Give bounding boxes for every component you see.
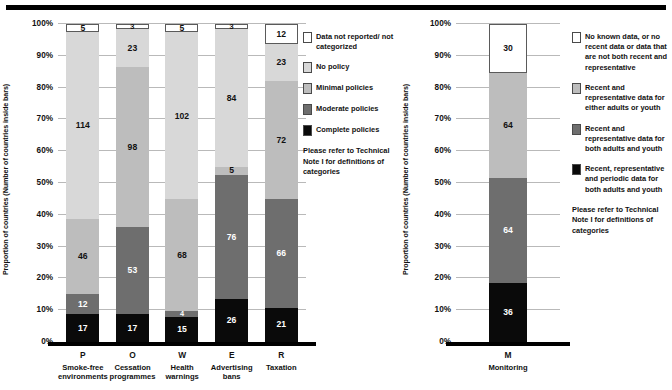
legend-swatch-icon [572,164,581,175]
bar-segment[interactable]: 5 [215,167,248,175]
legend-item-label: Recent and representative data for both … [585,124,672,155]
bar-segment[interactable]: 21 [265,308,298,342]
bar-segment-value: 46 [78,252,88,261]
legend-swatch-icon [572,124,581,135]
bar-segment[interactable]: 15 [165,317,198,342]
bar-segment[interactable]: 5 [66,24,99,32]
bar-segment[interactable]: 17 [116,314,149,342]
y-axis-tick-label: 90% [435,50,451,59]
y-axis-tick-label: 100% [32,19,53,28]
bar-segment[interactable]: 114 [66,32,99,219]
bar-segment[interactable]: 5 [165,24,198,32]
y-axis-tick-label: 30% [37,241,53,250]
bar-segment[interactable]: 68 [165,199,198,310]
bar-segment-value: 102 [175,112,189,121]
stacked-bar[interactable]: 1223726621 [265,24,298,342]
bar-column[interactable]: 510268415 [157,24,207,342]
bar-segment[interactable]: 12 [66,294,99,314]
x-axis-category-code: M [456,350,560,361]
bar-segment-value: 23 [128,44,138,53]
legend-item[interactable]: Recent and representative data for eithe… [572,83,672,114]
bar-segment[interactable]: 64 [489,178,527,283]
bar-column[interactable]: 30646436 [456,24,560,342]
bar-column[interactable]: 38457626 [207,24,257,342]
left-plot-area: 0%10%20%30%40%50%60%70%80%90%100% 511446… [58,24,306,342]
bar-segment[interactable]: 30 [489,24,527,73]
x-axis-category-name: Cessation programmes [108,363,158,382]
left-y-axis-title-text: Proportion of countries (Number of count… [2,83,11,274]
y-axis-tick-label: 50% [37,178,53,187]
bar-segment-value: 12 [276,30,286,39]
bar-segment[interactable]: 23 [265,44,298,82]
x-axis-category: OCessation programmes [108,350,158,381]
legend-item[interactable]: Minimal policies [303,83,399,94]
legend-swatch-icon [303,62,312,73]
left-x-axis-line [48,342,316,346]
x-axis-category-code: R [256,350,306,361]
legend-swatch-icon [572,83,581,94]
legend-item[interactable]: Recent and representative data for both … [572,124,672,155]
right-legend: No known data, or no recent data or data… [572,32,672,236]
bar-segment-value: 76 [227,233,237,242]
bar-segment[interactable]: 66 [265,199,298,307]
bar-segment-value: 72 [276,136,286,145]
legend-item[interactable]: Data not reported/ not categorized [303,32,399,52]
right-plot-area: 0%10%20%30%40%50%60%70%80%90%100% 306464… [456,24,560,342]
x-axis-category-code: P [58,350,108,361]
bar-segment[interactable]: 46 [66,219,99,294]
bar-segment-value: 5 [80,24,85,33]
bar-segment-value: 114 [76,121,90,130]
bar-segment[interactable]: 84 [215,29,248,167]
left-y-axis-title: Proportion of countries (Number of count… [0,14,14,344]
top-rule-divider [6,5,666,10]
x-axis-category-code: O [108,350,158,361]
left-bar-group: 5114461217323985317510268415384576261223… [58,24,306,342]
bar-segment[interactable]: 98 [116,67,149,228]
legend-item[interactable]: No known data, or no recent data or data… [572,32,672,73]
stacked-bar[interactable]: 30646436 [489,24,527,342]
bar-segment-value: 66 [276,249,286,258]
bar-segment-value: 17 [78,324,88,333]
y-axis-tick-label: 90% [37,50,53,59]
y-axis-tick-label: 60% [37,146,53,155]
x-axis-category-code: E [207,350,257,361]
bar-segment[interactable]: 17 [66,314,99,342]
x-axis-category: PSmoke-free environments [58,350,108,381]
bar-segment[interactable]: 36 [489,283,527,342]
bar-segment[interactable]: 26 [215,299,248,342]
bar-segment-value: 30 [503,44,513,53]
bar-segment[interactable]: 72 [265,81,298,199]
bar-column[interactable]: 5114461217 [58,24,108,342]
bar-segment[interactable]: 102 [165,32,198,199]
bar-segment[interactable]: 53 [116,227,149,314]
bar-segment-value: 68 [177,251,187,260]
stacked-bar[interactable]: 38457626 [215,24,248,342]
stacked-bar[interactable]: 5114461217 [66,24,99,342]
policies-chart-panel: Proportion of countries (Number of count… [0,14,400,384]
bar-segment-value: 21 [276,320,286,329]
bar-segment[interactable]: 12 [265,24,298,44]
legend-item-label: Complete policies [316,125,379,135]
right-y-axis-title: Proportion of countries (Number of count… [398,14,414,344]
stacked-bar[interactable]: 323985317 [116,24,149,342]
legend-swatch-icon [303,32,312,43]
bar-segment[interactable]: 64 [489,73,527,178]
legend-item-label: Recent and representative data for eithe… [585,83,672,114]
bar-segment-value: 64 [503,121,513,130]
bar-segment[interactable]: 76 [215,175,248,300]
bar-column[interactable]: 323985317 [108,24,158,342]
y-axis-tick-label: 10% [37,305,53,314]
legend-item[interactable]: Moderate policies [303,104,399,115]
bar-segment[interactable]: 23 [116,29,149,67]
legend-item[interactable]: No policy [303,62,399,73]
x-axis-category-name: Health warnings [157,363,207,382]
bar-column[interactable]: 1223726621 [256,24,306,342]
stacked-bar[interactable]: 510268415 [165,24,198,342]
legend-item[interactable]: Recent, representative and periodic data… [572,164,672,195]
legend-item-label: Moderate policies [316,104,378,114]
chart-page: Proportion of countries (Number of count… [0,0,672,390]
legend-item[interactable]: Complete policies [303,125,399,136]
bar-segment-value: 98 [128,143,138,152]
y-axis-tick-label: 60% [435,146,451,155]
monitoring-chart-panel: Proportion of countries (Number of count… [400,14,672,384]
